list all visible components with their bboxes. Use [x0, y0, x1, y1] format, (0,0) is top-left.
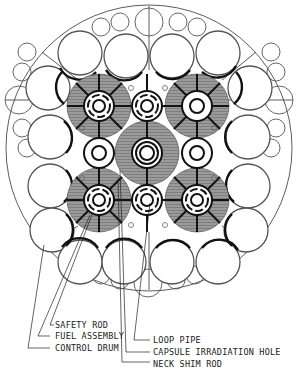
label-neck-shim-rod: NECK SHIM ROD	[153, 359, 222, 369]
label-safety-rod: SAFETY ROD	[55, 320, 108, 330]
label-fuel-assembly: FUEL ASSEMBLY	[55, 331, 124, 341]
label-loop-pipe: LOOP PIPE	[153, 335, 201, 345]
label-capsule-irradiation-hole: CAPSULE IRRADIATION HOLE	[153, 347, 281, 357]
label-control-drum: CONTROL DRUM	[55, 343, 119, 353]
lattice-elements	[80, 86, 217, 228]
reactor-core-diagram	[0, 0, 302, 374]
